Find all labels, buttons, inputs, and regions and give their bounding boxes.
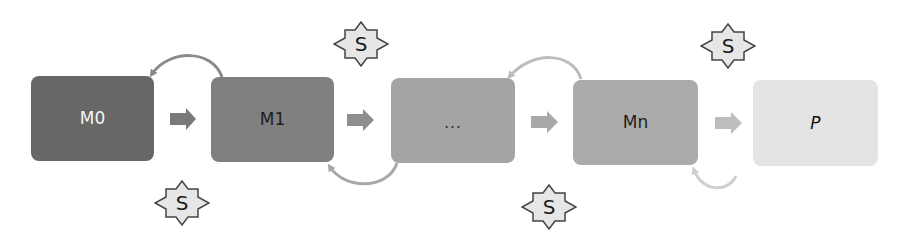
node-m1-label: M1	[260, 111, 285, 128]
arrow-dots-to-mn	[531, 111, 558, 133]
star-badge-2-label: S	[333, 21, 389, 67]
node-ellipsis: ...	[391, 78, 515, 163]
star-badge-2: S	[333, 21, 389, 67]
node-p: P	[753, 80, 878, 166]
node-m1: M1	[211, 77, 334, 162]
node-mn: Mn	[573, 80, 698, 165]
node-ellipsis-label: ...	[444, 116, 461, 131]
node-p-label: P	[810, 115, 820, 132]
node-m0-label: M0	[80, 110, 105, 127]
star-badge-4: S	[700, 23, 756, 69]
node-m0: M0	[31, 76, 154, 161]
feedback-arrow-dots-to-m1	[330, 163, 397, 184]
feedback-arrow-mn-to-dots	[510, 58, 581, 79]
feedback-arrow-m1-to-m0	[152, 56, 222, 77]
diagram-canvas: M0 M1 ... Mn P S S S S	[0, 0, 906, 240]
star-badge-3: S	[521, 184, 577, 230]
arrow-m1-to-dots	[347, 109, 374, 131]
star-badge-1: S	[154, 180, 210, 226]
star-badge-1-label: S	[154, 180, 210, 226]
node-mn-label: Mn	[623, 114, 648, 131]
arrow-m0-to-m1	[170, 108, 196, 130]
star-badge-3-label: S	[521, 184, 577, 230]
star-badge-4-label: S	[700, 23, 756, 69]
arrow-mn-to-p	[715, 112, 742, 134]
feedback-arrow-loop-mn	[694, 170, 736, 188]
